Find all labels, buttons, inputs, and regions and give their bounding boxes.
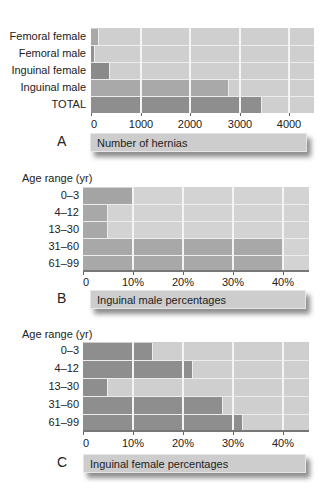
- bar: [83, 361, 193, 378]
- bar: [83, 397, 223, 414]
- gridline: [132, 342, 134, 432]
- x-tick-label: 30%: [222, 437, 244, 449]
- x-axis-line: [83, 430, 309, 432]
- x-tick-label: 40%: [272, 437, 294, 449]
- category-label: 13–30: [48, 378, 79, 395]
- category-label: 0–3: [61, 342, 79, 359]
- panel-letter: C: [57, 454, 67, 470]
- category-label: 61–99: [48, 414, 79, 431]
- tick-mark: [133, 432, 134, 435]
- bar: [83, 343, 153, 360]
- gridline: [232, 342, 234, 432]
- row-divider: [83, 414, 309, 415]
- row-divider: [83, 378, 309, 379]
- tick-mark: [83, 432, 84, 435]
- x-tick-label: 0: [83, 437, 89, 449]
- chart-panel-c: Age range (yr) C Inguinal female percent…: [0, 0, 330, 491]
- row-divider: [83, 360, 309, 361]
- x-tick-label: 20%: [172, 437, 194, 449]
- x-tick-label: 10%: [122, 437, 144, 449]
- tick-mark: [183, 432, 184, 435]
- bar: [83, 379, 108, 396]
- gridline: [182, 342, 184, 432]
- y-axis-title: Age range (yr): [22, 328, 92, 340]
- plot-area: [83, 342, 309, 432]
- tick-mark: [283, 432, 284, 435]
- row-divider: [83, 396, 309, 397]
- gridline: [282, 342, 284, 432]
- x-axis-caption: Inguinal female percentages: [83, 454, 306, 473]
- category-label: 31–60: [48, 396, 79, 413]
- tick-mark: [233, 432, 234, 435]
- category-label: 4–12: [55, 360, 79, 377]
